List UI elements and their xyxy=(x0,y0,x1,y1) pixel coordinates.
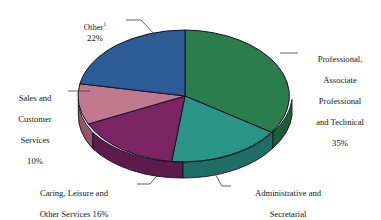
slice-label-caring-line1: Caring, Leisure and xyxy=(14,188,134,198)
slice-label-other-text: Other1 xyxy=(84,22,106,32)
slice-label-professional-line1: Professional, xyxy=(300,54,380,64)
slice-label-administrative-line2: Secretarial xyxy=(233,209,343,219)
slice-label-administrative-line1: Administrative and xyxy=(233,188,343,198)
slice-label-other-percent: 22% xyxy=(66,33,124,43)
slice-label-other: Other1 22% xyxy=(66,12,124,54)
slice-label-caring-line2: Other Services 16% xyxy=(14,209,134,219)
slice-label-professional-percent: 35% xyxy=(300,138,380,148)
slice-label-professional-line4: and Technical xyxy=(300,117,380,127)
slice-label-sales-line2: Customer xyxy=(4,114,66,124)
slice-label-professional: Professional, Associate Professional and… xyxy=(300,44,380,158)
slice-label-sales-percent: 10% xyxy=(4,156,66,166)
footnote-marker: 1 xyxy=(103,22,106,28)
slice-label-sales-line1: Sales and xyxy=(4,93,66,103)
slice-label-professional-line2: Associate xyxy=(300,75,380,85)
slice-label-sales: Sales and Customer Services 10% xyxy=(4,83,66,177)
slice-label-sales-line3: Services xyxy=(4,135,66,145)
slice-label-professional-line3: Professional xyxy=(300,96,380,106)
pie-chart-figure: Other1 22% Professional, Associate Profe… xyxy=(0,0,381,220)
slice-label-caring: Caring, Leisure and Other Services 16% xyxy=(14,178,134,220)
slice-label-administrative: Administrative and Secretarial 17% xyxy=(233,178,343,220)
